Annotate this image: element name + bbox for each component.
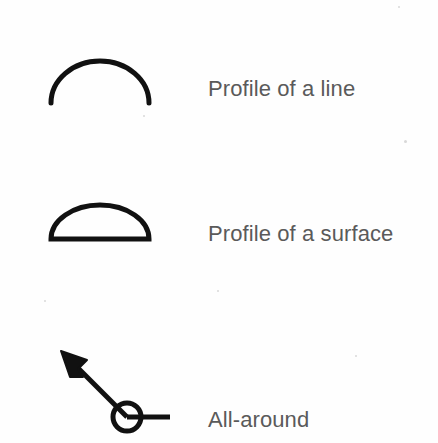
legend-row-profile-of-a-line: Profile of a line: [0, 40, 438, 120]
scan-speck: [398, 6, 400, 8]
symbol-legend-sheet: Profile of a line Profile of a surface A…: [0, 0, 438, 443]
scan-speck: [217, 290, 219, 292]
scan-speck: [404, 140, 407, 143]
legend-row-profile-of-a-surface: Profile of a surface: [0, 185, 438, 265]
all-around-leader-symbol: [48, 336, 183, 440]
open-arc-symbol: [30, 46, 170, 120]
legend-label-all-around: All-around: [208, 409, 309, 431]
legend-label-profile-of-a-surface: Profile of a surface: [208, 223, 393, 245]
legend-row-all-around: All-around: [0, 330, 438, 440]
legend-label-profile-of-a-line: Profile of a line: [208, 78, 355, 100]
leader-line: [77, 367, 127, 417]
scan-speck: [44, 300, 46, 302]
closed-half-circle-symbol: [30, 191, 170, 265]
